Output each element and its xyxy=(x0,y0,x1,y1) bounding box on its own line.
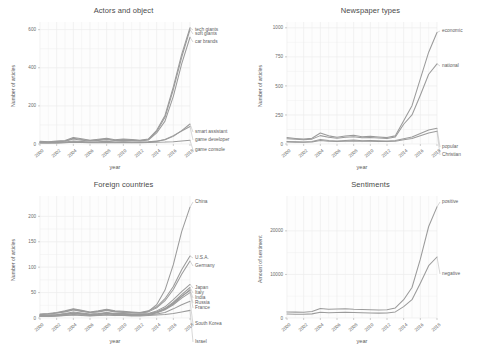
series-label: Christian xyxy=(442,152,461,157)
series-label: South Korea xyxy=(195,321,222,326)
series-label: negative xyxy=(442,271,460,276)
label-leader-line xyxy=(190,202,193,207)
y-tick-label: 400 xyxy=(0,65,36,70)
y-tick-label: 250 xyxy=(247,113,283,118)
y-tick-label: 100 xyxy=(0,265,36,270)
label-leader-line xyxy=(437,64,440,66)
series-label: Israel xyxy=(195,339,207,344)
chart-panel-1: Actors and objectNumber of articlesyear0… xyxy=(0,0,247,174)
label-leader-line xyxy=(190,261,193,266)
y-tick-label: 600 xyxy=(0,27,36,32)
label-leader-line xyxy=(437,202,440,207)
series-label: France xyxy=(195,305,210,310)
chart-panel-3: Foreign countriesNumber of articlesyear0… xyxy=(0,174,247,348)
series-label: smart assistant xyxy=(195,129,227,134)
chart-panel-2: Newspaper typesNumber of articlesyear025… xyxy=(247,0,494,174)
series-label: popular xyxy=(442,144,458,149)
label-leader-line xyxy=(190,256,193,258)
series-label: U.S.A. xyxy=(195,255,209,260)
y-tick-label: 50 xyxy=(0,290,36,295)
figure-grid: Actors and objectNumber of articlesyear0… xyxy=(0,0,494,348)
y-tick-label: 10000 xyxy=(247,272,283,277)
y-tick-label: 0 xyxy=(0,316,36,321)
series-label: national xyxy=(442,63,459,68)
label-leader-line xyxy=(190,30,193,34)
y-tick-label: 20000 xyxy=(247,228,283,233)
y-tick-label: 0 xyxy=(247,142,283,147)
y-tick-label: 150 xyxy=(0,239,36,244)
label-leader-line xyxy=(437,31,440,32)
series-label: soft giants xyxy=(195,31,217,36)
series-label: China xyxy=(195,199,208,204)
label-leader-line xyxy=(437,257,440,274)
y-tick-label: 1000 xyxy=(247,25,283,30)
y-tick-label: 750 xyxy=(247,54,283,59)
y-tick-label: 500 xyxy=(247,84,283,89)
y-tick-label: 0 xyxy=(247,316,283,321)
y-tick-label: 200 xyxy=(0,214,36,219)
series-label: game developer xyxy=(195,137,229,142)
series-label: car brands xyxy=(195,39,218,44)
y-tick-label: 0 xyxy=(0,142,36,147)
y-tick-label: 200 xyxy=(0,103,36,108)
series-label: economic xyxy=(442,28,463,33)
chart-panel-4: SentimentsAmount of sentimentyear0100002… xyxy=(247,174,494,348)
series-label: positive xyxy=(442,199,458,204)
series-label: Germany xyxy=(195,263,215,268)
series-label: game console xyxy=(195,147,225,152)
label-leader-line xyxy=(190,37,193,42)
